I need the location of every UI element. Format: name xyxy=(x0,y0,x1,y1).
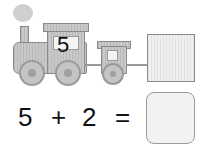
wheel xyxy=(19,60,45,86)
answer-box[interactable] xyxy=(146,92,195,144)
operand-b: 2 xyxy=(82,104,96,130)
engine-roof xyxy=(43,23,89,32)
equals-sign: = xyxy=(115,104,130,130)
wheel xyxy=(55,60,81,86)
wheel xyxy=(102,63,124,85)
third-car-box xyxy=(147,34,195,82)
operator-plus: + xyxy=(51,104,66,130)
operand-a: 5 xyxy=(18,104,32,130)
car-window xyxy=(107,50,118,61)
engine-number: 5 xyxy=(57,34,69,56)
smoke-icon xyxy=(13,4,33,22)
